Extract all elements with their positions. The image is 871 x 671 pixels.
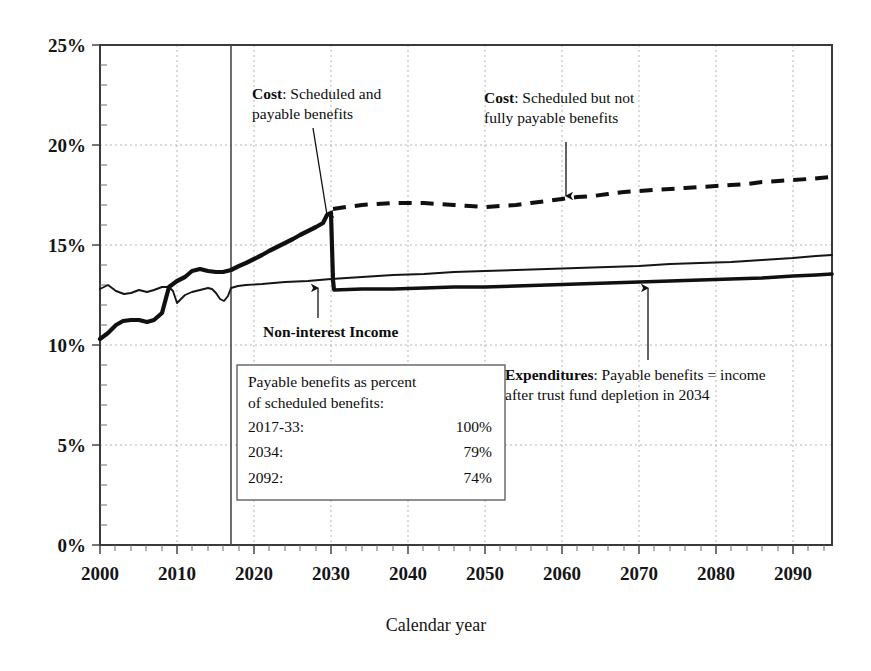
anno-expenditures-rest: : Payable benefits = income [593, 366, 765, 383]
xtick-2030: 2030 [312, 563, 350, 584]
anno-cost-payable-line1: Cost: Scheduled and [252, 85, 381, 102]
ytick-5: 5% [58, 435, 87, 456]
anno-non-interest-income-label: Non-interest Income [263, 323, 398, 340]
ytick-10: 10% [48, 335, 86, 356]
xtick-2060: 2060 [543, 563, 581, 584]
callout-heading-line1: Payable benefits as percent [248, 373, 417, 390]
xtick-2090: 2090 [774, 563, 812, 584]
ytick-15: 15% [48, 235, 86, 256]
social-security-cost-income-chart: 25% 20% 15% 10% 5% 0% 2000 2010 2020 203… [0, 0, 871, 671]
xtick-2050: 2050 [466, 563, 504, 584]
callout-row-0-label: 2017-33: [248, 418, 304, 435]
ytick-20: 20% [48, 135, 86, 156]
xtick-2070: 2070 [620, 563, 658, 584]
anno-cost-payable-rest: : Scheduled and [282, 85, 381, 102]
anno-expenditures-line1: Expenditures: Payable benefits = income [505, 366, 766, 383]
callout-row-1-label: 2034: [248, 443, 283, 460]
callout-row-2-value: 74% [464, 469, 493, 486]
xtick-2010: 2010 [158, 563, 196, 584]
anno-expenditures-line2: after trust fund depletion in 2034 [505, 386, 710, 403]
canvas-background [0, 0, 871, 671]
anno-expenditures-bold: Expenditures [505, 366, 593, 383]
callout-box-payable-percent: Payable benefits as percent of scheduled… [237, 365, 505, 500]
anno-cost-notpayable-bold: Cost [484, 89, 515, 106]
xtick-2080: 2080 [697, 563, 735, 584]
callout-row-2-label: 2092: [248, 469, 283, 486]
figure-container: 25% 20% 15% 10% 5% 0% 2000 2010 2020 203… [0, 0, 871, 671]
callout-row-0-value: 100% [456, 418, 492, 435]
xtick-2020: 2020 [235, 563, 273, 584]
anno-cost-notpayable-line2: fully payable benefits [484, 109, 618, 126]
anno-cost-notpayable-rest: : Scheduled but not [514, 89, 635, 106]
anno-cost-notpayable-line1: Cost: Scheduled but not [484, 89, 635, 106]
ytick-25: 25% [48, 35, 86, 56]
anno-cost-payable-line2: payable benefits [252, 105, 353, 122]
xtick-2000: 2000 [81, 563, 119, 584]
callout-heading-line2: of scheduled benefits: [248, 394, 384, 411]
anno-cost-payable-bold: Cost [252, 85, 283, 102]
callout-row-1-value: 79% [464, 443, 493, 460]
x-axis-title: Calendar year [386, 615, 486, 635]
xtick-2040: 2040 [389, 563, 427, 584]
ytick-0: 0% [58, 535, 87, 556]
